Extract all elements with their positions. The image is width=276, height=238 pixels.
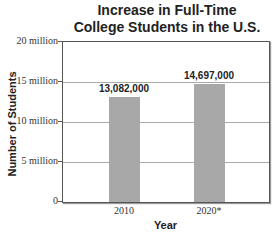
gridline-5m — [63, 162, 269, 163]
y-tick-label: 20 million — [0, 36, 58, 46]
x-tick-label-2020: 2020* — [184, 205, 234, 216]
chart-title: Increase in Full-Time College Students i… — [62, 2, 272, 36]
bar-2020 — [194, 84, 225, 202]
bar-value-label-2010: 13,082,000 — [84, 83, 164, 94]
plot-area: 13,082,000 14,697,000 — [62, 41, 270, 203]
gridline-10m — [63, 122, 269, 123]
y-tick-label: 5 million — [0, 156, 58, 166]
chart-title-line-1: Increase in Full-Time — [62, 2, 272, 19]
bar-value-label-2020: 14,697,000 — [169, 70, 249, 81]
y-tick-label: 15 million — [0, 76, 58, 86]
y-tick-label: 10 million — [0, 116, 58, 126]
x-tick-label-2010: 2010 — [99, 205, 149, 216]
x-axis-label: Year — [62, 219, 269, 231]
bar-2010 — [109, 97, 140, 202]
y-tick-label: 0 — [0, 196, 58, 206]
chart-title-line-2: College Students in the U.S. — [62, 19, 272, 36]
